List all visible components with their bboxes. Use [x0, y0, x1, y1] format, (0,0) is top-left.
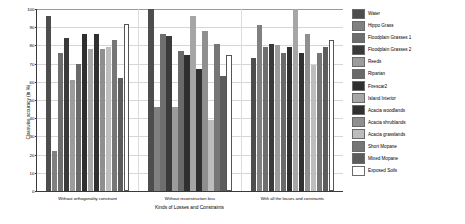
- bar: [154, 107, 159, 191]
- legend-item[interactable]: Exposed Soils: [352, 165, 464, 176]
- legend-label: Firescar2: [368, 84, 387, 89]
- bar: [184, 55, 189, 192]
- bar-group: Without reconstruction loss: [138, 9, 240, 191]
- bar: [160, 34, 165, 191]
- bar: [275, 45, 280, 191]
- bar-group: With all the losses and constraints: [241, 9, 343, 191]
- legend-swatch: [352, 9, 365, 19]
- legend-label: Mixed Mopane: [368, 156, 398, 161]
- legend-label: Acacia grasslands: [368, 132, 405, 137]
- bar: [329, 40, 334, 191]
- legend-swatch: [352, 81, 365, 91]
- bar: [311, 65, 316, 191]
- legend-item[interactable]: Hippo Grass: [352, 20, 464, 31]
- bar-group: Without orthogonality constraint: [37, 9, 138, 191]
- bar: [94, 34, 99, 191]
- bar: [70, 80, 75, 191]
- bar: [190, 16, 195, 191]
- legend-swatch: [352, 69, 365, 79]
- bar: [82, 34, 87, 191]
- bar: [46, 16, 51, 191]
- legend-swatch: [352, 153, 365, 163]
- legend-item[interactable]: Short Mopane: [352, 141, 464, 152]
- legend-item[interactable]: Riparian: [352, 68, 464, 79]
- plot-area: 0102030405060708090100 Without orthogona…: [36, 9, 343, 192]
- legend-label: Reeds: [368, 59, 381, 64]
- legend-item[interactable]: Reeds: [352, 56, 464, 67]
- legend-item[interactable]: Acacia woodlands: [352, 105, 464, 116]
- bar: [76, 64, 81, 191]
- legend-swatch: [352, 166, 365, 176]
- legend-item[interactable]: Island Interior: [352, 93, 464, 104]
- bar: [263, 47, 268, 191]
- legend: WaterHippo GrassFloodplain Grasses 1Floo…: [352, 8, 464, 176]
- bar: [172, 107, 177, 191]
- x-axis-group-label: Without reconstruction loss: [139, 196, 240, 201]
- legend-swatch: [352, 105, 365, 115]
- bar: [118, 78, 123, 191]
- y-axis-tick-mark: [35, 191, 37, 192]
- bar: [52, 151, 57, 191]
- bar: [269, 44, 274, 191]
- bar: [88, 49, 93, 191]
- bar: [287, 47, 292, 191]
- legend-item[interactable]: Acacia shrublands: [352, 117, 464, 128]
- bar: [148, 9, 153, 191]
- bar: [202, 31, 207, 191]
- bar: [166, 36, 171, 191]
- legend-swatch: [352, 93, 365, 103]
- legend-label: Hippo Grass: [368, 23, 394, 28]
- bar: [196, 69, 201, 191]
- bar: [317, 53, 322, 191]
- legend-label: Floodplain Grasses 1: [368, 35, 411, 40]
- legend-swatch: [352, 117, 365, 127]
- bar: [124, 24, 129, 191]
- legend-label: Acacia shrublands: [368, 120, 406, 125]
- legend-label: Short Mopane: [368, 144, 397, 149]
- bar: [305, 34, 310, 191]
- bar: [214, 44, 219, 191]
- legend-item[interactable]: Mixed Mopane: [352, 153, 464, 164]
- bar: [293, 9, 298, 191]
- bar: [220, 76, 225, 191]
- bar: [299, 53, 304, 191]
- legend-label: Floodplain Grasses 2: [368, 47, 411, 52]
- bar: [106, 47, 111, 191]
- bar: [208, 120, 213, 191]
- bar: [251, 58, 256, 191]
- bar-chart-figure: Classwise accuracy (in %) 01020304050607…: [0, 0, 465, 224]
- legend-item[interactable]: Floodplain Grasses 2: [352, 44, 464, 55]
- bar: [100, 49, 105, 191]
- legend-label: Water: [368, 11, 380, 16]
- legend-item[interactable]: Firescar2: [352, 80, 464, 91]
- bar: [323, 47, 328, 191]
- bar: [58, 53, 63, 191]
- bar: [257, 25, 262, 191]
- legend-item[interactable]: Water: [352, 8, 464, 19]
- legend-label: Acacia woodlands: [368, 108, 405, 113]
- legend-item[interactable]: Acacia grasslands: [352, 129, 464, 140]
- bar-groups: Without orthogonality constraintWithout …: [37, 9, 343, 191]
- bar: [112, 40, 117, 191]
- legend-swatch: [352, 21, 365, 31]
- legend-label: Riparian: [368, 71, 385, 76]
- legend-swatch: [352, 33, 365, 43]
- legend-label: Island Interior: [368, 96, 396, 101]
- x-axis-group-label: With all the losses and constraints: [242, 196, 343, 201]
- legend-item[interactable]: Floodplain Grasses 1: [352, 32, 464, 43]
- legend-swatch: [352, 45, 365, 55]
- bar: [178, 51, 183, 191]
- legend-label: Exposed Soils: [368, 168, 397, 173]
- legend-swatch: [352, 129, 365, 139]
- bar: [226, 55, 231, 192]
- x-axis-title: Kinds of Losses and Constraints: [36, 205, 343, 210]
- bar: [281, 53, 286, 191]
- legend-swatch: [352, 57, 365, 67]
- x-axis-group-label: Without orthogonality constraint: [37, 196, 138, 201]
- legend-swatch: [352, 141, 365, 151]
- bar: [64, 38, 69, 191]
